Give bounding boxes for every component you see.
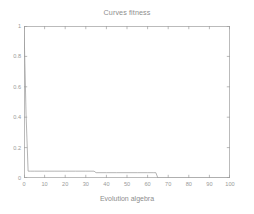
plot-canvas	[24, 26, 230, 178]
x-axis-tick-labels: 0102030405060708090100	[24, 181, 230, 189]
y-axis-tick-labels: 00.20.40.60.81	[2, 26, 21, 178]
x-tick-label: 30	[83, 181, 89, 187]
x-tick-label: 20	[62, 181, 68, 187]
x-tick-label: 80	[186, 181, 192, 187]
axis-box	[24, 26, 229, 177]
chart-title: Curves fitness	[0, 8, 254, 17]
y-tick-label: 0.4	[13, 114, 21, 120]
x-tick-label: 10	[41, 181, 47, 187]
axis-tick-marks	[24, 26, 230, 178]
y-tick-label: 0.2	[13, 145, 21, 151]
y-tick-label: 0.6	[13, 84, 21, 90]
plot-area	[24, 26, 230, 178]
x-tick-label: 60	[144, 181, 150, 187]
x-tick-label: 50	[124, 181, 130, 187]
chart-figure: Curves fitness 00.20.40.60.81 0102030405…	[0, 0, 254, 214]
x-tick-label: 40	[103, 181, 109, 187]
x-tick-label: 90	[206, 181, 212, 187]
x-tick-label: 0	[22, 181, 25, 187]
x-tick-label: 100	[225, 181, 234, 187]
y-tick-label: 0.8	[13, 53, 21, 59]
x-tick-label: 70	[165, 181, 171, 187]
y-tick-label: 1	[18, 23, 21, 29]
x-axis-label: Evolution algebra	[0, 194, 254, 203]
y-tick-label: 0	[18, 175, 21, 181]
data-series-group	[24, 26, 230, 178]
